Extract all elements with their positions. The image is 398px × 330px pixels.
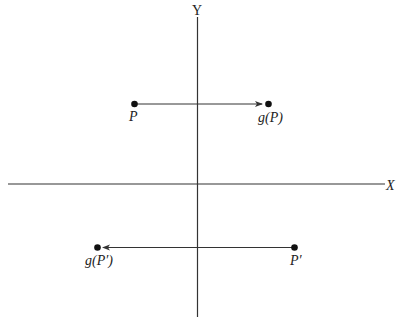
- label-p: P: [128, 109, 138, 124]
- point-gp: [265, 101, 272, 108]
- x-axis-label: X: [385, 178, 395, 193]
- label-gpprime: g(P′): [85, 253, 113, 269]
- point-p: [131, 101, 138, 108]
- label-gp: g(P): [258, 110, 283, 126]
- coordinate-plane: X Y P g(P) P′ g(P′): [0, 0, 398, 330]
- diagram-canvas: X Y P g(P) P′ g(P′): [0, 0, 398, 330]
- y-axis-label: Y: [192, 3, 202, 18]
- label-pprime: P′: [289, 253, 303, 268]
- point-pprime: [291, 244, 298, 251]
- point-gpprime: [94, 244, 101, 251]
